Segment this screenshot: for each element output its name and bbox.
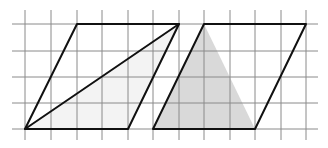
geometry-diagram bbox=[0, 0, 328, 148]
